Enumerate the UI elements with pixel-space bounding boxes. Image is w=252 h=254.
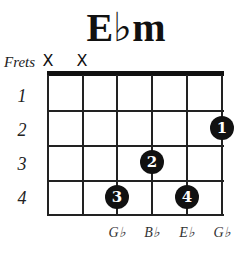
fret-line-1 — [47, 110, 224, 112]
muted-string-1-icon: X — [38, 51, 58, 70]
chord-root: E — [86, 5, 113, 50]
finger-dot-3: 3 — [105, 185, 129, 209]
nut — [47, 71, 224, 76]
fret-number-3: 3 — [12, 154, 32, 175]
chord-title: E♭m — [0, 4, 252, 52]
fret-number-1: 1 — [12, 86, 32, 107]
muted-string-2-icon: X — [72, 51, 92, 70]
string-note-4: B♭ — [137, 224, 167, 241]
finger-dot-4: 4 — [175, 185, 199, 209]
string-note-5: E♭ — [172, 224, 202, 241]
fret-number-2: 2 — [12, 120, 32, 141]
chord-quality: m — [132, 5, 165, 50]
fret-line-3 — [47, 180, 224, 182]
chord-accidental: ♭ — [113, 5, 132, 50]
string-note-3: G♭ — [102, 224, 132, 241]
finger-dot-2: 2 — [140, 150, 164, 174]
fret-line-4 — [47, 214, 224, 216]
finger-dot-1: 1 — [210, 116, 234, 140]
frets-label: Frets — [4, 54, 35, 71]
fret-line-2 — [47, 145, 224, 147]
fret-number-4: 4 — [12, 188, 32, 209]
string-note-6: G♭ — [207, 224, 237, 241]
